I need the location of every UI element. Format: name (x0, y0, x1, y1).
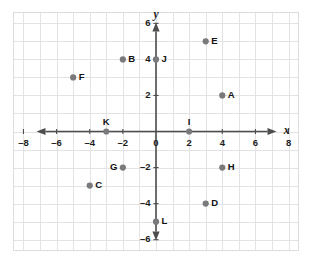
x-tick-label: 4 (220, 137, 226, 148)
point-label: I (188, 116, 191, 127)
point-marker (219, 92, 225, 98)
plot-point-e: E (203, 35, 218, 46)
point-marker (87, 182, 93, 188)
point-marker (203, 38, 209, 44)
y-axis-label: y (151, 8, 159, 21)
coordinate-plane-figure: –8–6–4–202468–6–4–2246 xy ABCDEFGHIJKL (0, 0, 312, 263)
point-label: H (228, 161, 235, 172)
point-label: J (162, 53, 167, 64)
y-tick-label: –6 (140, 233, 151, 244)
plot-point-j: J (153, 53, 167, 64)
tick-labels: –8–6–4–202468–6–4–2246 (18, 17, 291, 244)
plot-point-c: C (87, 179, 103, 190)
y-tick-label: 6 (145, 17, 150, 28)
point-marker (120, 56, 126, 62)
x-tick-label: 6 (253, 137, 258, 148)
plot-point-l: L (153, 215, 168, 226)
point-label: K (103, 116, 110, 127)
x-tick-label: –2 (118, 137, 129, 148)
x-tick-label: 2 (186, 137, 191, 148)
plot-point-b: B (120, 53, 136, 64)
point-marker (219, 164, 225, 170)
point-marker (70, 74, 76, 80)
x-tick-label: –4 (84, 137, 95, 148)
plot-point-f: F (70, 71, 85, 82)
y-tick-label: –2 (140, 161, 151, 172)
axis-names: xy (151, 8, 289, 136)
point-marker (153, 56, 159, 62)
x-tick-label: –8 (18, 137, 29, 148)
point-label: E (211, 35, 217, 46)
point-marker (103, 128, 109, 134)
point-label: C (95, 179, 102, 190)
point-label: G (110, 161, 117, 172)
point-label: B (128, 53, 135, 64)
point-label: L (162, 215, 168, 226)
x-axis-label: x (283, 124, 290, 136)
point-marker (153, 219, 159, 225)
point-label: A (228, 89, 235, 100)
data-points: ABCDEFGHIJKL (70, 35, 235, 226)
x-tick-label: 0 (153, 137, 158, 148)
x-tick-label: –6 (51, 137, 62, 148)
axes (23, 23, 288, 241)
y-tick-label: 2 (145, 89, 150, 100)
plot-point-h: H (219, 161, 235, 172)
y-tick-label: –4 (140, 197, 151, 208)
plot-point-k: K (103, 116, 110, 135)
point-marker (203, 201, 209, 207)
point-label: D (211, 197, 218, 208)
coordinate-plane-svg: –8–6–4–202468–6–4–2246 xy ABCDEFGHIJKL (0, 0, 312, 263)
point-label: F (79, 71, 85, 82)
point-marker (120, 164, 126, 170)
x-tick-label: 8 (286, 137, 291, 148)
plot-point-d: D (203, 197, 219, 208)
plot-point-a: A (219, 89, 235, 100)
y-tick-label: 4 (145, 53, 151, 64)
point-marker (186, 128, 192, 134)
plot-point-i: I (186, 116, 192, 135)
